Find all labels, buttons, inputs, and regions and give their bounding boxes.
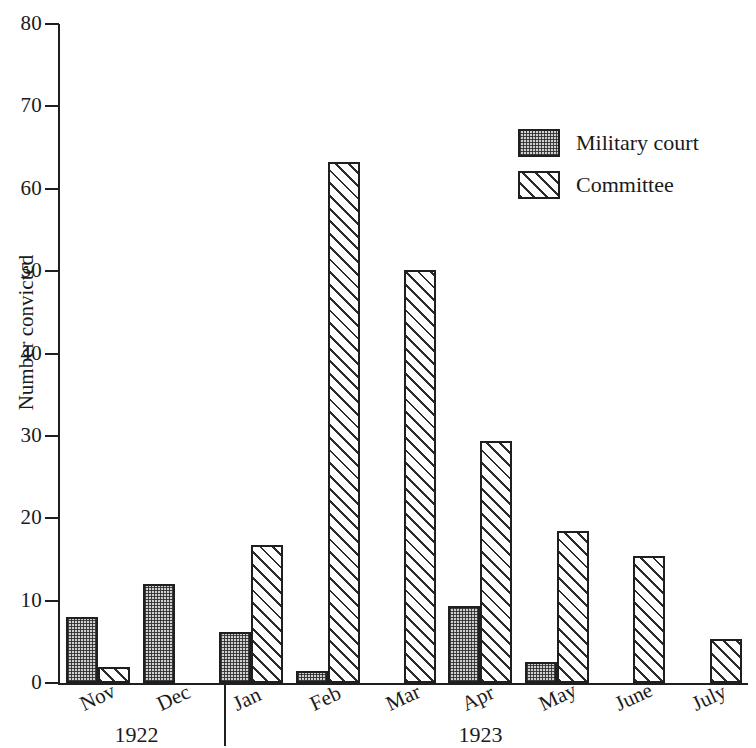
- x-label-feb: Feb: [306, 681, 345, 717]
- bar-mar-committee: [404, 270, 436, 683]
- bar-apr-committee: [480, 441, 512, 683]
- y-tick-80: [45, 23, 59, 25]
- y-tick-label-80: 80: [0, 13, 42, 34]
- bar-chart-figure: 01020304050607080 Number convicted NovDe…: [0, 0, 756, 748]
- y-tick-70: [45, 105, 59, 107]
- x-year-label-1922: 1922: [60, 722, 213, 748]
- x-label-dec: Dec: [153, 680, 194, 717]
- y-tick-label-70: 70: [0, 95, 42, 116]
- y-axis-line: [58, 24, 60, 685]
- y-tick-30: [45, 435, 59, 437]
- y-tick-label-0: 0: [0, 672, 42, 693]
- legend: Military court Committee: [518, 126, 699, 210]
- legend-label-committee: Committee: [576, 172, 674, 198]
- legend-label-military-court: Military court: [576, 130, 699, 156]
- y-tick-0: [45, 682, 59, 684]
- bar-jan-military-court: [219, 632, 251, 683]
- bar-may-committee: [557, 531, 589, 683]
- hatched-swatch-icon: [518, 171, 560, 199]
- y-tick-label-10: 10: [0, 590, 42, 611]
- x-label-jan: Jan: [229, 682, 265, 716]
- plot-area: 01020304050607080 Number convicted NovDe…: [0, 0, 756, 748]
- bar-dec-military-court: [143, 584, 175, 683]
- y-tick-50: [45, 270, 59, 272]
- bar-july-committee: [710, 639, 742, 683]
- x-year-label-1923: 1923: [213, 722, 748, 748]
- bar-feb-military-court: [296, 671, 328, 683]
- bar-jan-committee: [251, 545, 283, 683]
- legend-item-military-court: Military court: [518, 126, 699, 160]
- y-axis-title: Number convicted: [14, 203, 39, 463]
- bar-may-military-court: [525, 662, 557, 683]
- bar-apr-military-court: [448, 606, 480, 683]
- x-label-apr: Apr: [458, 680, 498, 716]
- stippled-swatch-icon: [518, 129, 560, 157]
- bar-nov-military-court: [66, 617, 98, 683]
- legend-item-committee: Committee: [518, 168, 699, 202]
- y-tick-20: [45, 517, 59, 519]
- y-tick-label-60: 60: [0, 178, 42, 199]
- y-tick-label-20: 20: [0, 507, 42, 528]
- y-tick-60: [45, 188, 59, 190]
- y-tick-10: [45, 600, 59, 602]
- bar-feb-committee: [328, 162, 360, 683]
- y-tick-40: [45, 353, 59, 355]
- bar-june-committee: [633, 556, 665, 683]
